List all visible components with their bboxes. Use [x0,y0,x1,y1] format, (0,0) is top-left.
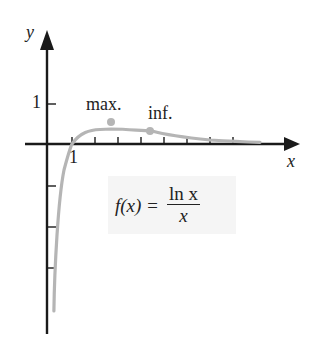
chart: y x 1 1 max. inf. f(x) = ln x x [0,0,323,348]
y-tick-label-1: 1 [32,92,41,113]
formula: f(x) = ln x x [115,184,200,227]
formula-fraction: ln x x [167,184,200,227]
formula-denominator: x [179,205,187,227]
formula-numerator: ln x [167,184,200,205]
y-axis-label: y [26,22,34,43]
formula-lhs: f(x) = [115,195,159,217]
inflection-point [146,127,154,135]
max-point [107,118,115,126]
x-tick-label-1: 1 [69,147,78,168]
y-axis-arrow-icon [40,30,54,50]
x-axis-label: x [287,151,295,172]
plot-area [0,0,323,348]
inflection-annotation: inf. [148,103,173,124]
max-annotation: max. [86,94,122,115]
y-ticks [47,104,56,268]
x-axis-arrow-icon [284,137,300,151]
